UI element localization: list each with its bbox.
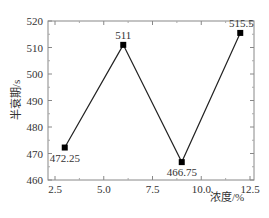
x-axis-label: 浓度/%: [210, 190, 244, 203]
data-series: 472.25511466.75515.5: [50, 17, 255, 178]
y-tick-label: 480: [27, 121, 44, 133]
y-tick-label: 510: [27, 42, 44, 54]
y-tick-label: 460: [27, 174, 44, 186]
y-axis-label: 半衰期/s: [9, 80, 22, 120]
data-label: 466.75: [167, 166, 198, 178]
data-label: 515.5: [229, 17, 254, 29]
data-label: 472.25: [50, 152, 81, 164]
series-line: [65, 33, 241, 162]
data-point-marker: [62, 145, 68, 151]
x-tick-label: 5.0: [97, 183, 111, 195]
data-point-marker: [179, 159, 185, 165]
y-tick-label: 490: [27, 95, 44, 107]
x-tick-label: 10.0: [192, 183, 212, 195]
y-tick-label: 500: [27, 68, 44, 80]
y-tick-label: 520: [27, 15, 44, 27]
x-tick-label: 7.5: [146, 183, 160, 195]
data-point-marker: [237, 30, 243, 36]
data-label: 511: [115, 29, 131, 41]
y-tick-label: 470: [27, 148, 44, 160]
data-point-marker: [120, 42, 126, 48]
line-chart: 460470480490500510520 2.55.07.510.012.5 …: [0, 0, 269, 218]
x-tick-label: 2.5: [48, 183, 62, 195]
